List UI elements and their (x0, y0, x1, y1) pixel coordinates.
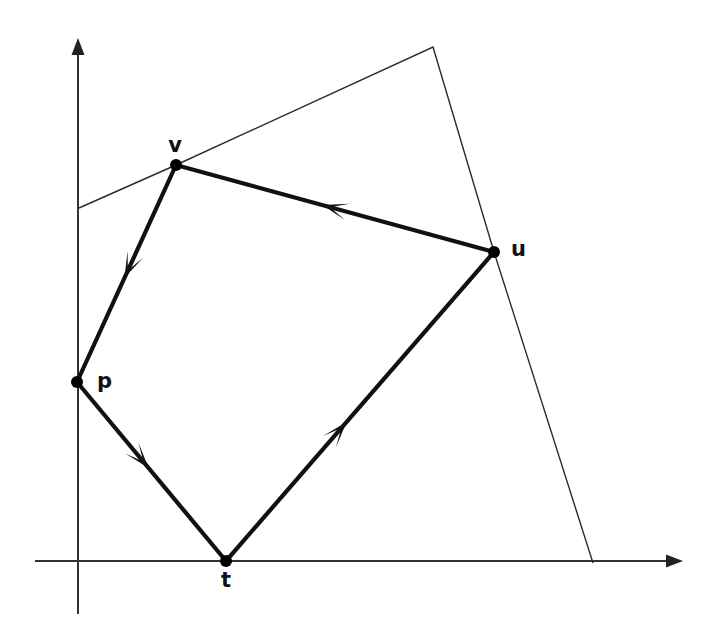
cycle-edge-p-to-t (77, 382, 226, 561)
vertex-dot-u[interactable] (488, 246, 500, 258)
hull-boundary-group (79, 47, 593, 563)
hull-polyline (79, 47, 593, 563)
vertex-dot-p[interactable] (71, 376, 83, 388)
vertex-t[interactable]: t (220, 555, 232, 592)
edge-line-u-to-v (176, 165, 494, 252)
geometry-diagram: pvut (0, 0, 713, 621)
axes-group (35, 38, 683, 614)
vertex-label-u: u (511, 237, 526, 261)
cycle-edge-v-to-p (77, 165, 176, 382)
vertex-label-t: t (221, 568, 231, 592)
cycle-edge-t-to-u (226, 252, 494, 561)
vertex-u[interactable]: u (488, 237, 526, 261)
cycle-edges-group (77, 165, 494, 561)
y-axis-arrowhead-icon (72, 38, 85, 55)
vertices-group: pvut (71, 133, 526, 592)
vertex-v[interactable]: v (168, 133, 182, 171)
vertex-dot-v[interactable] (170, 159, 182, 171)
vertex-label-p: p (97, 369, 112, 393)
diagram-canvas: pvut (0, 0, 713, 621)
edge-line-p-to-t (77, 382, 226, 561)
cycle-edge-u-to-v (176, 165, 494, 252)
x-axis-arrowhead-icon (666, 555, 683, 568)
vertex-dot-t[interactable] (220, 555, 232, 567)
edge-line-t-to-u (226, 252, 494, 561)
vertex-label-v: v (168, 133, 182, 157)
